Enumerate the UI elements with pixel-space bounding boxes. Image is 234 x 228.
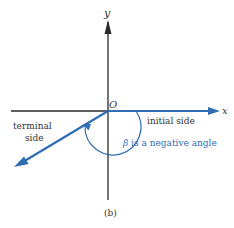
terminal-side-label-line2: side — [25, 133, 44, 143]
y-axis-label: y — [103, 7, 111, 20]
y-axis-arrowhead — [105, 20, 112, 34]
initial-side-label: initial side — [147, 116, 195, 126]
angle-description-text: is a negative angle — [128, 138, 217, 148]
figure-caption: (b) — [104, 208, 117, 218]
angle-arc — [85, 111, 141, 155]
angle-description: β is a negative angle — [122, 138, 217, 148]
angle-diagram: y x O initial side terminal side β is a … — [0, 0, 234, 228]
terminal-side-label-line1: terminal — [13, 121, 52, 131]
x-axis-arrowhead — [208, 107, 220, 115]
x-axis-label: x — [222, 105, 228, 116]
angle-arc-arrowhead — [83, 124, 91, 131]
terminal-arrowhead — [14, 157, 29, 168]
origin-label: O — [109, 99, 117, 110]
